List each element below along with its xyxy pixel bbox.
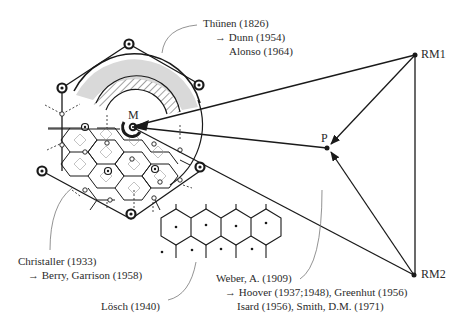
thunen-followup-1: → Dunn (1954) xyxy=(215,31,285,44)
thunen-citation: Thünen (1826) xyxy=(203,17,269,30)
node-points xyxy=(325,53,418,278)
raw-material-1-label: RM1 xyxy=(421,48,446,61)
losch-citation: Lösch (1940) xyxy=(101,300,160,313)
lower-order-centers xyxy=(60,112,182,202)
hex-lattice xyxy=(48,128,190,210)
market-label: M xyxy=(128,109,139,122)
mid-order-centers xyxy=(82,124,159,175)
weber-followup-1: → Hoover (1937;1948), Greenhut (1956) xyxy=(225,286,407,299)
christaller-citation: Christaller (1933) xyxy=(18,255,97,268)
plant-label: P xyxy=(321,132,328,145)
weber-followup-2: Isard (1956), Smith, D.M. (1971) xyxy=(237,300,384,313)
raw-material-2-label: RM2 xyxy=(421,268,446,281)
christaller-followup: → Berry, Garrison (1958) xyxy=(28,269,142,282)
thunen-followup-2: Alonso (1964) xyxy=(229,45,293,58)
weber-citation: Weber, A. (1909) xyxy=(216,272,292,285)
